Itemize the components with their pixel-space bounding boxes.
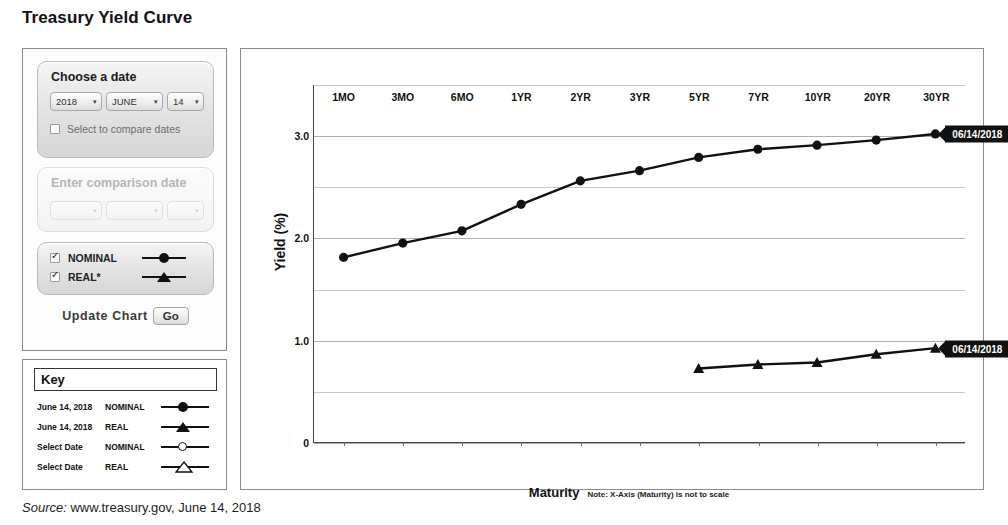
- key-row-date: June 14, 2018: [37, 402, 105, 412]
- key-row: June 14, 2018 NOMINAL: [37, 398, 217, 415]
- plot-area: 01.02.03.0 1MO3MO6MO1YR2YR3YR5YR7YR10YR2…: [313, 85, 965, 443]
- x-tick: [403, 442, 404, 446]
- series-toggle-card: NOMINAL REAL*: [37, 242, 214, 295]
- comparison-date-title: Enter comparison date: [51, 176, 186, 190]
- key-row: June 14, 2018 REAL: [37, 418, 217, 435]
- x-tick: [521, 442, 522, 446]
- real-symbol-icon: [142, 271, 186, 283]
- y-tick-label: 3.0: [294, 130, 309, 142]
- series-callout-label: 06/14/2018: [945, 340, 1008, 357]
- month-dropdown[interactable]: JUNE ▾: [106, 92, 163, 111]
- key-row: Select Date NOMINAL: [37, 438, 217, 455]
- page-title: Treasury Yield Curve: [22, 8, 192, 28]
- chevron-down-icon: ▾: [154, 98, 158, 106]
- source-label: Source:: [22, 500, 67, 515]
- key-row-type: REAL: [105, 462, 161, 472]
- x-tick: [344, 442, 345, 446]
- y-tick-label: 1.0: [294, 335, 309, 347]
- app-frame: Choose a date 2018 ▾ JUNE ▾ 14 ▾ Select …: [22, 48, 984, 490]
- data-point-circle: [457, 226, 466, 235]
- day-dropdown[interactable]: 14 ▾: [167, 92, 204, 111]
- open-triangle-icon: [161, 461, 209, 473]
- year-value: 2018: [56, 96, 77, 107]
- x-axis-title: Maturity: [529, 485, 580, 500]
- real-label: REAL*: [68, 271, 142, 283]
- y-tick-label: 2.0: [294, 232, 309, 244]
- nominal-checkbox[interactable]: [50, 253, 60, 263]
- key-row: Select Date REAL: [37, 458, 217, 475]
- open-circle-icon: [161, 441, 209, 453]
- source-text: www.treasury.gov, June 14, 2018: [70, 500, 260, 515]
- choose-date-card: Choose a date 2018 ▾ JUNE ▾ 14 ▾ Select …: [37, 61, 214, 158]
- chevron-down-icon: ▾: [195, 98, 199, 106]
- chevron-down-icon: ▾: [93, 98, 97, 106]
- filled-triangle-icon: [161, 421, 209, 433]
- x-tick: [581, 442, 582, 446]
- year-dropdown[interactable]: 2018 ▾: [50, 92, 102, 111]
- data-point-circle: [339, 253, 348, 262]
- key-title: Key: [34, 368, 217, 391]
- choose-date-title: Choose a date: [51, 70, 136, 84]
- x-tick: [759, 442, 760, 446]
- key-panel: Key June 14, 2018 NOMINAL June 14, 2018 …: [22, 359, 227, 490]
- day-value: 14: [173, 96, 184, 107]
- data-point-circle: [635, 166, 644, 175]
- comparison-year-dropdown[interactable]: ▾: [50, 201, 102, 220]
- data-point-circle: [812, 141, 821, 150]
- data-point-circle: [398, 239, 407, 248]
- plot-wrap: 01.02.03.0 1MO3MO6MO1YR2YR3YR5YR7YR10YR2…: [293, 71, 965, 453]
- series-toggle-real[interactable]: REAL*: [50, 271, 203, 283]
- source-line: Source: www.treasury.gov, June 14, 2018: [22, 500, 261, 515]
- data-point-circle: [753, 145, 762, 154]
- y-axis-title: Yield (%): [272, 197, 288, 287]
- chart-panel: Yield (%) 01.02.03.0 1MO3MO6MO1YR2YR3YR5…: [240, 48, 984, 490]
- compare-dates-checkbox[interactable]: [50, 124, 60, 134]
- key-row-type: NOMINAL: [105, 442, 161, 452]
- key-row-date: June 14, 2018: [37, 422, 105, 432]
- comparison-month-dropdown[interactable]: ▾: [106, 201, 163, 220]
- data-point-circle: [517, 200, 526, 209]
- compare-dates-row[interactable]: Select to compare dates: [50, 123, 180, 135]
- month-value: JUNE: [112, 96, 137, 107]
- key-row-date: Select Date: [37, 442, 105, 452]
- chevron-down-icon: ▾: [154, 207, 158, 215]
- controls-panel: Choose a date 2018 ▾ JUNE ▾ 14 ▾ Select …: [22, 48, 227, 351]
- y-tick-label: 0: [303, 437, 309, 449]
- key-row-date: Select Date: [37, 462, 105, 472]
- data-point-circle: [694, 153, 703, 162]
- x-tick: [699, 442, 700, 446]
- x-tick: [818, 442, 819, 446]
- nominal-symbol-icon: [142, 252, 186, 264]
- series-line: [344, 134, 936, 257]
- series-toggle-nominal[interactable]: NOMINAL: [50, 252, 203, 264]
- nominal-label: NOMINAL: [68, 252, 142, 264]
- x-axis-caption: Maturity Note: X-Axis (Maturity) is not …: [293, 485, 965, 500]
- filled-circle-icon: [161, 401, 209, 413]
- key-row-type: REAL: [105, 422, 161, 432]
- chevron-down-icon: ▾: [93, 207, 97, 215]
- data-point-circle: [872, 135, 881, 144]
- compare-dates-label: Select to compare dates: [67, 123, 180, 135]
- comparison-day-dropdown[interactable]: ▾: [167, 201, 204, 220]
- key-row-type: NOMINAL: [105, 402, 161, 412]
- series-callout-label: 06/14/2018: [945, 126, 1008, 143]
- update-chart-row: Update Chart Go: [37, 307, 214, 325]
- chevron-down-icon: ▾: [195, 207, 199, 215]
- x-tick: [877, 442, 878, 446]
- update-chart-label: Update Chart: [62, 309, 148, 323]
- data-point-circle: [576, 176, 585, 185]
- comparison-date-card: Enter comparison date ▾ ▾ ▾: [37, 167, 214, 232]
- x-tick: [462, 442, 463, 446]
- x-tick: [936, 442, 937, 446]
- real-checkbox[interactable]: [50, 272, 60, 282]
- x-axis-note: Note: X-Axis (Maturity) is not to scale: [587, 490, 729, 499]
- go-button[interactable]: Go: [153, 307, 189, 325]
- x-tick: [640, 442, 641, 446]
- series-layer: [314, 85, 965, 442]
